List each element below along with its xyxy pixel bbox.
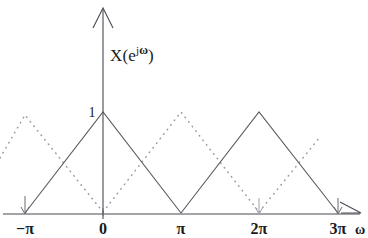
- function-label-prefix: X(e: [110, 46, 136, 65]
- dtft-figure: −π 0 π 2π 3π ω 1 X(ejω): [0, 0, 368, 238]
- dotted-triangle-series: [0, 112, 320, 212]
- tick-arrow-two-pi: [255, 198, 263, 214]
- tick-label-two-pi: 2π: [251, 220, 268, 237]
- solid-triangle-second: [181, 112, 338, 213]
- tick-arrow-three-pi: [334, 198, 342, 214]
- tick-labels: −π 0 π 2π 3π ω 1: [16, 105, 365, 237]
- tick-label-zero: 0: [99, 220, 107, 237]
- spectrum-plot: −π 0 π 2π 3π ω 1: [0, 0, 368, 238]
- y-value-label-one: 1: [89, 105, 96, 120]
- dotted-segment-left: [0, 115, 103, 212]
- tick-arrow-minus-pi: [21, 196, 29, 214]
- solid-triangle-series: [25, 112, 338, 213]
- tick-label-minus-pi: −π: [16, 220, 34, 237]
- tick-label-three-pi: 3π: [330, 220, 347, 237]
- function-label-exponent: jω: [136, 44, 148, 56]
- function-label-exponent-omega: ω: [139, 43, 148, 57]
- dotted-segment-right: [259, 137, 320, 212]
- dotted-segment-middle: [103, 112, 259, 212]
- x-axis-label-omega: ω: [355, 222, 365, 237]
- x-axis-arrowhead: [340, 202, 361, 213]
- tick-label-pi: π: [177, 220, 186, 237]
- function-label-suffix: ): [148, 46, 154, 65]
- function-label: X(ejω): [110, 44, 154, 64]
